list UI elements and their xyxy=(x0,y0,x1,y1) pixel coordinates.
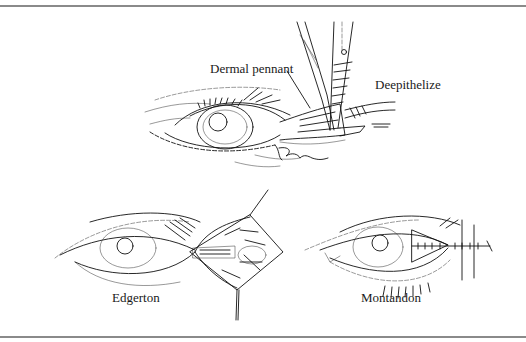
montandon-illustration xyxy=(305,216,492,298)
dermal-pennant-label: Dermal pennant xyxy=(210,61,293,77)
artist-signature xyxy=(275,145,328,160)
illustration xyxy=(0,0,526,342)
montandon-label: Montandon xyxy=(361,290,421,306)
deepithelize-label: Deepithelize xyxy=(375,77,441,93)
edgerton-illustration xyxy=(55,190,283,320)
top-eye-illustration xyxy=(145,22,395,167)
edgerton-label: Edgerton xyxy=(112,290,160,306)
